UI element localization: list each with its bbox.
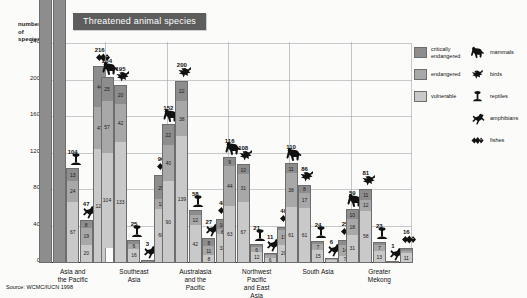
bar-segment-vuln: 11: [401, 253, 412, 262]
bar-mammals[interactable]: 101831: [346, 209, 359, 263]
bar-birds[interactable]: 2238139: [175, 81, 188, 264]
fishes-icon: [470, 134, 485, 147]
bar-birds[interactable]: 81761: [298, 185, 311, 263]
mammals-icon: [286, 147, 302, 162]
bar-mammals-clipped[interactable]: [39, 0, 52, 263]
bar-segment-vuln: 61: [286, 207, 297, 262]
group-label: Asia and the Pacific: [58, 268, 88, 284]
legend-label-fishes: fishes: [490, 137, 504, 144]
bar-segment-endg: 40: [163, 145, 174, 181]
bar-segment-vuln: 139: [176, 136, 187, 262]
bar-segment-vuln: 42: [190, 225, 201, 262]
bar-amphibians[interactable]: 146: [264, 253, 277, 263]
bar-reptiles[interactable]: 3713: [373, 242, 386, 263]
bar-segment-endg: 31: [238, 174, 249, 202]
legend-item-amphibians[interactable]: amphibians: [470, 112, 524, 125]
bar-group: 224090152223813920041242588118271063248A…: [167, 44, 228, 263]
bar-mammals[interactable]: 94463: [223, 157, 236, 263]
bar-segment-endg: 12: [360, 200, 371, 211]
reptiles-icon: [374, 226, 390, 241]
bar-segment-vuln: 6: [265, 258, 276, 262]
amphibians-icon: [470, 112, 485, 125]
legend-item-endg[interactable]: endangered: [414, 68, 468, 81]
legend-label-crit: criticallyendangered: [431, 46, 460, 59]
group-label: Southeast Asia: [118, 268, 151, 284]
fishes-icon: [401, 232, 417, 247]
bar-birds-clipped[interactable]: [53, 0, 66, 263]
legend-swatch-endg: [414, 69, 427, 80]
legend-item-vuln[interactable]: vulnerable: [414, 90, 468, 103]
group-label: Australasia and the Pacific: [179, 268, 212, 292]
reptiles-icon: [190, 194, 206, 209]
bar-segment-endg: 19: [81, 228, 92, 245]
bar-segment-vuln: 133: [115, 142, 126, 262]
legend-item-birds[interactable]: birds: [470, 68, 524, 81]
bar-amphibians[interactable]: 123: [325, 258, 338, 263]
bar-segment-crit: 10: [347, 210, 358, 219]
bar-segment-vuln: 63: [224, 206, 235, 262]
bar-amphibians[interactable]: 81920: [80, 220, 93, 263]
bar-segment-vuln: 67: [238, 202, 249, 262]
bar-group: 101831591112588137132311231116Greater Me…: [351, 44, 412, 263]
bar-segment-vuln: 104: [102, 153, 113, 248]
legend-swatch-vuln: [414, 91, 427, 102]
legend-label-amphibians: amphibians: [490, 115, 518, 122]
bar-segment-crit: 9: [224, 158, 235, 166]
bar-reptiles[interactable]: 41242: [189, 210, 202, 263]
birds-icon: [470, 68, 485, 81]
plot-area: 0408012016020024013246710481920474447125…: [44, 44, 412, 263]
birds-icon: [177, 65, 193, 80]
y-axis-title-line2: of: [18, 29, 41, 37]
bar-fishes[interactable]: 2311: [400, 248, 413, 263]
bar-group: 25571042042042133195361625111325116096So…: [105, 44, 166, 263]
legend-item-reptiles[interactable]: reptiles: [470, 90, 524, 103]
bar-segment-crit: 11: [286, 164, 297, 174]
bar-segment-endg: 11: [203, 246, 214, 255]
reptiles-icon: [470, 90, 485, 103]
bar-segment-endg: 38: [176, 101, 187, 135]
bar-segment-endg: 18: [347, 219, 358, 235]
group-label: Greater Mekong: [363, 268, 396, 284]
bar-segment-vuln: 12: [251, 252, 262, 262]
legend-taxa: mammalsbirdsreptilesamphibiansfishes: [470, 46, 524, 156]
bar-group: 11386111081761862715241236414725South As…: [289, 44, 350, 263]
birds-icon: [361, 173, 377, 188]
chart-canvas: number of species Threatened animal spec…: [0, 0, 527, 298]
bar-segment-vuln: 67: [67, 202, 78, 262]
bar-segment-vuln: 8: [203, 255, 214, 262]
bar-amphibians[interactable]: 1: [386, 261, 399, 263]
bar-group: 13246710481920474447125216Asia and the P…: [44, 44, 105, 263]
bar-reptiles[interactable]: 132467: [66, 168, 79, 263]
mammals-icon: [470, 46, 485, 59]
chart-title: Threatened animal species: [73, 13, 206, 30]
legend-item-mammals[interactable]: mammals: [470, 46, 524, 59]
bar-segment-crit: 20: [115, 86, 126, 104]
bar-mammals[interactable]: 113861: [285, 163, 298, 263]
legend-swatch-crit: [414, 47, 427, 58]
bar-birds[interactable]: 2042133: [114, 85, 127, 263]
bar-segment-endg: 44: [224, 166, 235, 205]
bar-segment-vuln: 15: [312, 250, 323, 262]
bar-segment-vuln: 16: [128, 249, 139, 262]
birds-icon: [299, 169, 315, 184]
bar-segment-endg: 17: [299, 193, 310, 208]
bar-mammals[interactable]: 2557104: [101, 77, 114, 263]
bar-segment-vuln: 20: [81, 245, 92, 262]
bar-amphibians[interactable]: 8118: [202, 238, 215, 263]
bar-segment-crit: 10: [238, 165, 249, 174]
legend-item-crit[interactable]: criticallyendangered: [414, 46, 468, 59]
bar-birds[interactable]: 111258: [359, 189, 372, 263]
bar-reptiles[interactable]: 3616: [127, 240, 140, 263]
bar-birds[interactable]: 103167: [237, 164, 250, 263]
bar-reptiles[interactable]: 2715: [311, 241, 324, 263]
bar-amphibians[interactable]: 111: [141, 260, 154, 263]
bar-segment-crit: 22: [163, 125, 174, 145]
bar-segment-endg: 42: [115, 104, 126, 142]
bar-segment-vuln: 3: [326, 260, 337, 262]
bar-segment-vuln: 61: [299, 208, 310, 262]
legend-label-birds: birds: [490, 71, 502, 78]
bar-mammals[interactable]: 224090: [162, 124, 175, 263]
bar-reptiles[interactable]: 3612: [250, 244, 263, 263]
legend-item-fishes[interactable]: fishes: [470, 134, 524, 147]
legend-label-reptiles: reptiles: [490, 93, 508, 100]
